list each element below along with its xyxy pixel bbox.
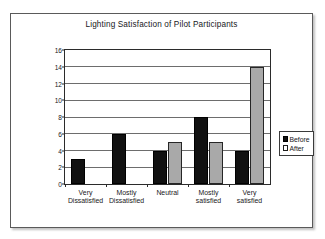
- bar-group: [65, 50, 106, 184]
- bar-before-4: [235, 151, 250, 185]
- y-tick-label: 6: [58, 130, 62, 137]
- y-tick-label: 8: [58, 114, 62, 121]
- y-tick-label: 10: [55, 97, 62, 104]
- legend-label: Before: [290, 136, 310, 143]
- x-tick-mark: [229, 184, 230, 187]
- x-category-label-line: Mostly: [105, 189, 149, 197]
- bar-before-3: [194, 117, 209, 184]
- y-tick-label: 14: [55, 63, 62, 70]
- y-tick-label: 2: [58, 164, 62, 171]
- bar-group: [147, 50, 188, 184]
- x-category-label-line: Very: [228, 189, 272, 197]
- legend-item-after[interactable]: After: [283, 144, 310, 153]
- bar-after-2: [168, 142, 183, 184]
- bar-group: [188, 50, 229, 184]
- x-category-label: Mostlysatisfied: [187, 189, 231, 206]
- y-tick-label: 12: [55, 80, 62, 87]
- legend-swatch-after-icon: [283, 145, 289, 151]
- x-category-label-line: Very: [64, 189, 108, 197]
- x-tick-mark: [106, 184, 107, 187]
- bar-before-0: [71, 159, 86, 184]
- bar-before-1: [112, 134, 127, 184]
- x-category-label: VeryDissatisfied: [64, 189, 108, 206]
- x-category-label: Neutral: [146, 189, 190, 197]
- x-category-label-line: satisfied: [228, 197, 272, 205]
- x-category-label-line: Dissatisfied: [64, 197, 108, 205]
- x-tick-mark: [65, 184, 66, 187]
- legend-swatch-before-icon: [283, 136, 289, 142]
- plot-area: 0246810121416 VeryDissatisfiedMostlyDiss…: [64, 49, 271, 185]
- chart-figure: Lighting Satisfaction of Pilot Participa…: [10, 13, 313, 228]
- y-tick-label: 16: [55, 47, 62, 54]
- x-category-label-line: Neutral: [146, 189, 190, 197]
- chart-title: Lighting Satisfaction of Pilot Participa…: [11, 20, 312, 29]
- y-tick-label: 0: [58, 181, 62, 188]
- bar-after-3: [209, 142, 224, 184]
- bar-before-2: [153, 151, 168, 185]
- legend-item-before[interactable]: Before: [283, 135, 310, 144]
- bar-after-4: [250, 67, 265, 184]
- x-category-label-line: satisfied: [187, 197, 231, 205]
- x-category-label-line: Dissatisfied: [105, 197, 149, 205]
- x-category-label: Verysatisfied: [228, 189, 272, 206]
- legend-label: After: [290, 145, 304, 152]
- y-tick-label: 4: [58, 147, 62, 154]
- plot-wrapper: # of Participants 0246810121416 VeryDiss…: [54, 39, 304, 214]
- bar-group: [229, 50, 270, 184]
- bar-group: [106, 50, 147, 184]
- x-category-label: MostlyDissatisfied: [105, 189, 149, 206]
- x-tick-mark: [147, 184, 148, 187]
- x-tick-mark: [188, 184, 189, 187]
- x-category-label-line: Mostly: [187, 189, 231, 197]
- chart-legend: BeforeAfter: [279, 131, 314, 156]
